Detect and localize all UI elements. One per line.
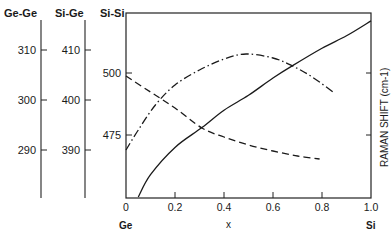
si-ge-tick-label: 390: [62, 144, 80, 156]
ge-ge-tick-label: 310: [18, 44, 36, 56]
x-left-endpoint-label: Ge: [119, 220, 133, 231]
raman-shift-chart: 00.20.40.60.81.0310300290410400390500475…: [0, 0, 392, 237]
series-layer: [126, 21, 371, 197]
series-si-ge-line: [126, 54, 334, 150]
x-right-endpoint-label: Si: [366, 220, 376, 231]
label-layer: Ge-Ge Si-Ge Si-Si x Ge Si RAMAN SHIFT (c…: [4, 7, 390, 231]
si-ge-tick-label: 410: [62, 44, 80, 56]
x-axis-label: x: [226, 219, 231, 230]
si-si-tick-label: 475: [103, 129, 121, 141]
x-tick-label: 0.2: [168, 201, 183, 213]
x-tick-label: 1.0: [364, 201, 379, 213]
axes-layer: 00.20.40.60.81.0310300290410400390500475: [18, 13, 379, 213]
sige-axis-title: Si-Ge: [55, 7, 84, 19]
sisi-axis-title: Si-Si: [100, 7, 124, 19]
series-ge-ge-line: [126, 76, 320, 159]
x-tick-label: 0.8: [315, 201, 330, 213]
ge-ge-tick-label: 300: [18, 94, 36, 106]
x-tick-label: 0.4: [217, 201, 232, 213]
series-si-si-line: [138, 21, 371, 197]
ge-ge-tick-label: 290: [18, 144, 36, 156]
x-tick-label: 0: [123, 201, 129, 213]
x-tick-label: 0.6: [266, 201, 281, 213]
y-axis-label: RAMAN SHIFT (cm-1): [379, 68, 390, 167]
si-ge-tick-label: 400: [62, 94, 80, 106]
si-si-tick-label: 500: [103, 67, 121, 79]
plot-frame: [126, 13, 371, 198]
gege-axis-title: Ge-Ge: [4, 7, 37, 19]
